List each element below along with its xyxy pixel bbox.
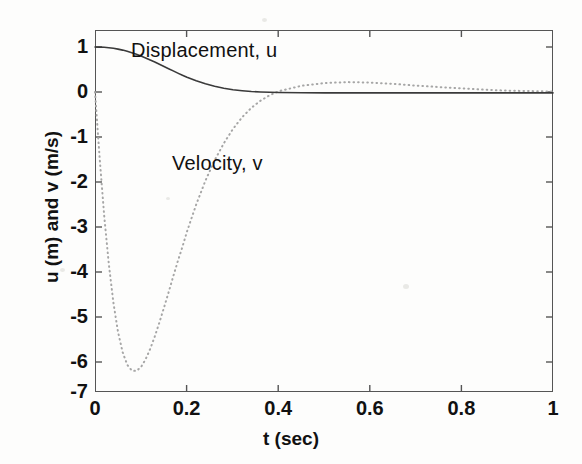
x-tick-label: 0: [80, 398, 110, 418]
x-tick-label-group: 0 0.2 0.4 0.6 0.8 1: [0, 398, 582, 426]
series-label-velocity: Velocity, v: [172, 152, 263, 175]
x-tick-label: 0.6: [340, 398, 400, 418]
y-tick-label: -6: [42, 351, 88, 371]
y-tick-marks-right: [546, 47, 553, 362]
x-axis-title: t (sec): [0, 428, 582, 450]
x-tick-label: 0.8: [431, 398, 491, 418]
x-tick-marks: [187, 385, 462, 392]
figure-canvas: 1 0 -1 -2 -3 -4 -5 -6 -7 0 0.2 0.4 0.6 0…: [0, 0, 582, 464]
x-tick-label: 1: [538, 398, 568, 418]
y-tick-label: 1: [42, 36, 88, 56]
x-tick-label: 0.4: [248, 398, 308, 418]
series-label-displacement: Displacement, u: [131, 39, 277, 62]
y-axis-title: u (m) and v (m/s): [41, 77, 63, 337]
x-tick-label: 0.2: [157, 398, 217, 418]
x-tick-marks-top: [187, 30, 462, 37]
series-velocity-curve: [95, 82, 553, 371]
y-tick-marks: [95, 47, 102, 362]
